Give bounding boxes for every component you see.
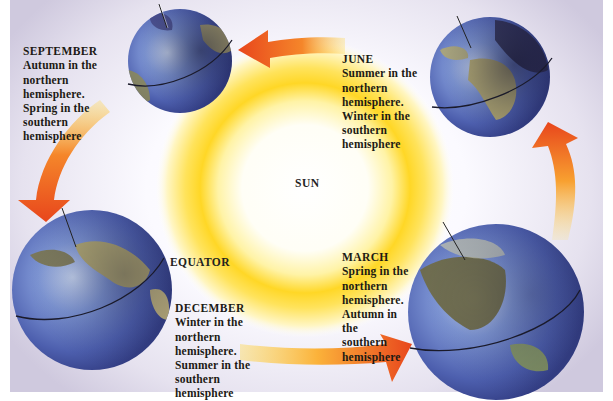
season-description: Winter in the northern hemisphere. Summe… [175, 316, 250, 399]
globe-june [430, 16, 552, 137]
seasons-diagram: SEPTEMBERAutumn in the northern hemisphe… [0, 0, 613, 401]
season-month: SEPTEMBER [23, 44, 98, 58]
season-month: DECEMBER [175, 301, 250, 315]
season-description: Spring in the northern hemisphere. Autum… [342, 265, 409, 362]
season-description: Summer in the northern hemisphere. Winte… [342, 67, 417, 150]
season-label-september: SEPTEMBERAutumn in the northern hemisphe… [23, 30, 98, 144]
season-label-march: MARCHSpring in the northern hemisphere. … [342, 236, 409, 364]
sun-label: SUN [295, 177, 320, 189]
season-label-december: DECEMBERWinter in the northern hemispher… [175, 287, 250, 401]
globe-december [12, 208, 172, 370]
season-description: Autumn in the northern hemisphere. Sprin… [23, 59, 97, 142]
season-month: JUNE [342, 52, 417, 66]
globe-september [126, 4, 232, 113]
season-label-june: JUNESummer in the northern hemisphere. W… [342, 38, 417, 152]
equator-label: EQUATOR [170, 256, 230, 268]
orbit-arrow-march-to-june [532, 122, 578, 240]
season-month: MARCH [342, 250, 409, 264]
